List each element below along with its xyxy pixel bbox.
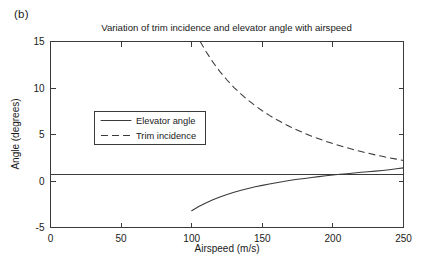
- series-line-trim-incidence: [200, 42, 403, 161]
- figure-panel-b: (b) Variation of trim incidence and elev…: [0, 0, 422, 270]
- x-tick-label: 50: [116, 233, 128, 244]
- legend: Elevator angle Trim incidence: [95, 112, 206, 145]
- legend-label-trim-incidence: Trim incidence: [136, 131, 196, 141]
- x-tick-label: 0: [48, 233, 54, 244]
- y-axis-title: Angle (degrees): [10, 98, 21, 169]
- y-tick-label: -5: [36, 222, 45, 233]
- y-tick-label: 0: [39, 176, 45, 187]
- x-tick-label: 250: [395, 233, 412, 244]
- legend-label-elevator-angle: Elevator angle: [136, 116, 195, 126]
- chart-plot: 050100150200250-5051015 Airspeed (m/s) A…: [0, 0, 422, 270]
- y-tick-label: 5: [39, 129, 45, 140]
- x-axis-title: Airspeed (m/s): [194, 243, 259, 254]
- y-tick-label: 15: [33, 36, 45, 47]
- x-tick-label: 200: [325, 233, 342, 244]
- y-tick-label: 10: [33, 83, 45, 94]
- x-tick-label: 100: [183, 233, 200, 244]
- tick-labels-group: 050100150200250-5051015: [33, 36, 412, 244]
- x-tick-label: 150: [254, 233, 271, 244]
